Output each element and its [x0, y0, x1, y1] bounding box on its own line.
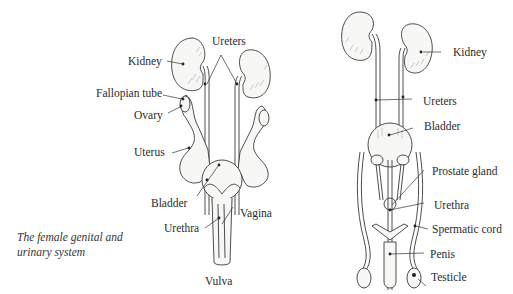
- male-kidney-right: [402, 24, 433, 73]
- female-label-vagina: Vagina: [240, 208, 272, 220]
- male-label-urethra: Urethra: [434, 200, 469, 212]
- male-label-ureters: Ureters: [423, 96, 457, 108]
- female-label-fallopian-tube: Fallopian tube: [96, 88, 162, 100]
- female-caption: The female genital and urinary system: [17, 230, 137, 260]
- male-label-testicle: Testicle: [431, 272, 467, 284]
- female-label-uterus: Uterus: [134, 147, 165, 159]
- male-label-spermatic-cord: Spermatic cord: [432, 224, 502, 236]
- male-testicle-right: [407, 268, 421, 288]
- male-testicle-left: [357, 268, 371, 288]
- female-ovary-right: [259, 110, 269, 126]
- male-label-bladder: Bladder: [424, 121, 460, 133]
- male-label-penis: Penis: [430, 249, 455, 261]
- female-kidney-right: [240, 50, 271, 98]
- female-label-urethra: Urethra: [164, 223, 199, 235]
- female-ovary-left: [180, 96, 190, 112]
- male-diagram: [342, 12, 441, 290]
- female-label-bladder: Bladder: [151, 198, 187, 210]
- male-label-kidney: Kidney: [453, 47, 487, 59]
- female-label-ovary: Ovary: [134, 110, 163, 122]
- female-label-kidney: Kidney: [128, 56, 162, 68]
- male-kidney-left: [342, 12, 374, 60]
- male-label-prostate-gland: Prostate gland: [432, 166, 497, 178]
- female-vagina-tube: [212, 198, 232, 265]
- female-caption-line2: urinary system: [17, 245, 137, 260]
- female-label-ureters: Ureters: [212, 36, 246, 48]
- female-label-vulva: Vulva: [205, 276, 232, 288]
- male-penis: [384, 242, 396, 288]
- female-kidney-left: [172, 38, 205, 91]
- female-caption-line1: The female genital and: [17, 230, 137, 245]
- male-prostate: [384, 198, 396, 210]
